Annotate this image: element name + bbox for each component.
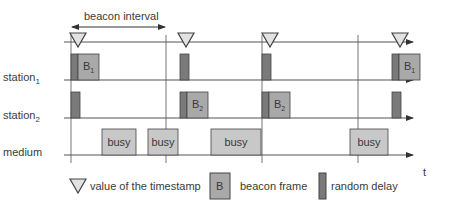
- legend: value of the timestamp B beacon frame ra…: [70, 173, 398, 199]
- random-delay-block: [71, 54, 78, 80]
- medium-blocks: busybusybusybusy: [102, 129, 388, 155]
- beacon-interval-indicator: beacon interval: [72, 10, 165, 27]
- random-delay-block: [262, 54, 271, 80]
- timestamp-icon: [262, 33, 278, 47]
- station1-label: station1: [3, 71, 40, 86]
- legend-beacon-symbol: B: [216, 180, 223, 192]
- busy-label: busy: [357, 136, 381, 148]
- station2-blocks: B2B2: [71, 92, 401, 118]
- timestamp-icon: [392, 33, 408, 47]
- legend-beacon-label: beacon frame: [240, 180, 307, 192]
- legend-delay-label: random delay: [331, 180, 398, 192]
- random-delay-block: [180, 54, 189, 80]
- legend-timestamp-label: value of the timestamp: [90, 180, 201, 192]
- busy-label: busy: [107, 136, 131, 148]
- medium-label: medium: [3, 146, 42, 158]
- timestamp-icon: [70, 33, 86, 47]
- station1-blocks: B1B1: [71, 54, 420, 80]
- timestamp-markers: [70, 33, 408, 47]
- timestamp-legend-icon: [70, 179, 86, 193]
- random-delay-block: [392, 92, 401, 118]
- timestamp-icon: [178, 33, 194, 47]
- station2-label: station2: [3, 109, 40, 124]
- beacon-interval-label: beacon interval: [84, 10, 159, 22]
- random-delay-block: [180, 92, 187, 118]
- row-labels: station1station2medium: [3, 71, 42, 158]
- busy-label: busy: [224, 136, 248, 148]
- time-axis-label: t: [423, 166, 426, 178]
- random-delay-block: [262, 92, 269, 118]
- busy-label: busy: [151, 136, 175, 148]
- random-delay-block: [392, 54, 399, 80]
- random-delay-legend-icon: [319, 173, 326, 199]
- random-delay-block: [71, 92, 80, 118]
- beacon-timing-diagram: beacon interval B1B1 B2B2 busybusybusybu…: [0, 0, 458, 210]
